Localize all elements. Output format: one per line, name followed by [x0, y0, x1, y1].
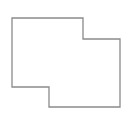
- floor-plan-diagram: [0, 0, 131, 115]
- stepped-outline-shape: [12, 18, 120, 107]
